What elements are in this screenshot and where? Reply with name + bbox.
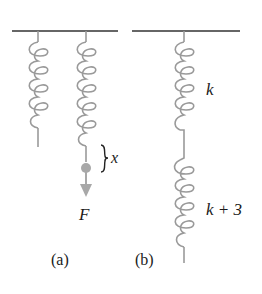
spring-series (175, 31, 194, 263)
spring-unstretched (29, 31, 48, 147)
force-label: F (78, 205, 90, 224)
force-arrow (80, 170, 92, 197)
spring-k-plus-3-label: k + 3 (206, 200, 242, 219)
panel-a-caption: (a) (51, 251, 69, 269)
spring-stretched (77, 31, 96, 162)
spring-diagram: x F (a) k k + 3 (b) (0, 0, 262, 294)
displacement-brace (101, 145, 108, 172)
panel-a: x F (a) (12, 31, 118, 269)
spring-k-label: k (206, 80, 214, 99)
panel-b: k k + 3 (b) (132, 31, 242, 269)
panel-b-caption: (b) (135, 251, 154, 269)
displacement-label: x (110, 149, 118, 166)
